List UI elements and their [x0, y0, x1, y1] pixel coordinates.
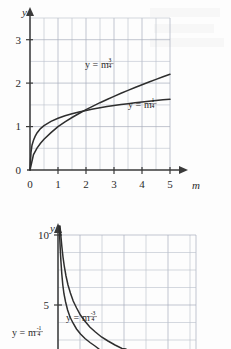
y-axis-title-2: y [49, 222, 55, 234]
x-tick-label-5: 5 [167, 178, 173, 190]
x-tick-label-1: 1 [55, 178, 61, 190]
grid-lines [30, 18, 170, 170]
label-outer-base: m [28, 327, 36, 338]
x-tick-label-3: 3 [111, 178, 117, 190]
figure-page: 3 2 1 0 0 1 2 3 4 5 y m y = m 3 4 [0, 0, 231, 349]
y2-tick-label-5: 5 [44, 299, 50, 311]
label-inner-lhs: y = [66, 312, 80, 323]
y-axis-title: y [21, 6, 27, 18]
x-tick-label-0: 0 [27, 178, 33, 190]
curve-label-m-three-quarters: y = m 3 4 [85, 57, 114, 70]
chart-positive-fractional-powers: 3 2 1 0 0 1 2 3 4 5 y m y = m 3 4 [0, 0, 231, 196]
x-axis-title: m [192, 179, 200, 191]
label-inner-base: m [82, 312, 90, 323]
label-outer-denominator: 4 [38, 331, 41, 337]
y-tick-label-3: 3 [16, 34, 22, 46]
chart-negative-fractional-powers: 10 5 y y = m -3 4 y = m -1 4 [0, 196, 231, 349]
chart-1-canvas: 3 2 1 0 0 1 2 3 4 5 y m y = m 3 4 [0, 0, 231, 196]
label-upper-denominator: 4 [109, 63, 112, 69]
curve-label-m-negative-three-quarters: y = m -3 4 [66, 310, 97, 323]
label-upper-lhs: y = [85, 59, 99, 70]
x-tick-label-4: 4 [139, 178, 145, 190]
y-axis-arrow [26, 7, 34, 16]
axes [26, 7, 188, 174]
chart-2-canvas: 10 5 y y = m -3 4 y = m -1 4 [0, 196, 231, 349]
label-lower-denominator: 4 [152, 103, 155, 109]
x-tick-label-2: 2 [83, 178, 89, 190]
label-outer-lhs: y = [12, 327, 26, 338]
y2-tick-label-10: 10 [38, 229, 50, 241]
x-axis-arrow [179, 166, 188, 174]
curve-label-m-negative-one-quarter: y = m -1 4 [12, 325, 43, 338]
label-lower-lhs: y = [128, 99, 142, 110]
y-tick-label-1: 1 [16, 120, 22, 132]
label-inner-denominator: 4 [92, 316, 95, 322]
y-tick-label-0: 0 [16, 164, 22, 176]
y-tick-label-2: 2 [16, 77, 22, 89]
